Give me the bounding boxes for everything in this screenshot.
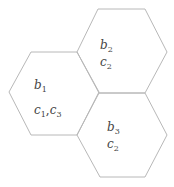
hex1-label-c: c1,c3	[34, 103, 61, 119]
hexagon-diagram: b1 c1,c3 b2 c2 b3 c2	[0, 0, 174, 187]
hex3-label-c: c2	[107, 137, 119, 153]
hex3-label-b: b3	[107, 120, 120, 136]
diagram-svg: b1 c1,c3 b2 c2 b3 c2	[0, 0, 174, 187]
hex1-label-b: b1	[34, 78, 47, 94]
hexagon-2	[77, 9, 167, 93]
hexagon-3	[77, 93, 167, 177]
hex2-label-c: c2	[100, 55, 112, 71]
hexagon-1	[9, 52, 99, 135]
hex2-label-b: b2	[100, 38, 113, 54]
